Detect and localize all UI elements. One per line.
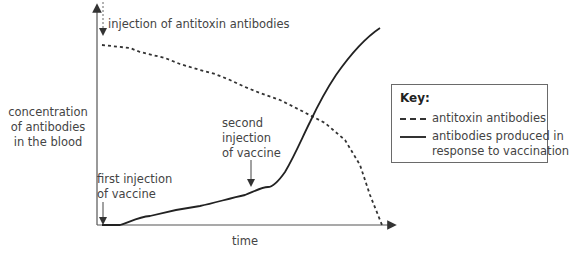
first-injection-label-line: of vaccine (97, 187, 172, 202)
y-axis-label-line: concentration (2, 105, 94, 120)
solid-line-icon (400, 136, 426, 138)
legend-item-label: response to vaccination (432, 144, 569, 159)
y-axis-label-line: of antibodies (2, 120, 94, 135)
second-injection-label-line: second (222, 116, 281, 131)
y-axis-label: concentration of antibodies in the blood (2, 105, 94, 150)
antitoxin-injection-label: injection of antitoxin antibodies (108, 17, 290, 32)
first-injection-label-line: first injection (97, 172, 172, 187)
first-injection-label: first injection of vaccine (97, 172, 172, 202)
second-injection-label-line: of vaccine (222, 146, 281, 161)
legend-item-label: antitoxin antibodies (432, 111, 546, 126)
legend-key: Key: antitoxin antibodies antibodies pro… (391, 84, 548, 163)
legend-item-label: antibodies produced in (432, 129, 564, 144)
x-axis-label: time (232, 234, 258, 249)
y-axis-label-line: in the blood (2, 135, 94, 150)
second-injection-label: second injection of vaccine (222, 116, 281, 161)
dashed-line-icon (400, 118, 426, 120)
legend-title: Key: (400, 91, 430, 105)
second-injection-label-line: injection (222, 131, 281, 146)
